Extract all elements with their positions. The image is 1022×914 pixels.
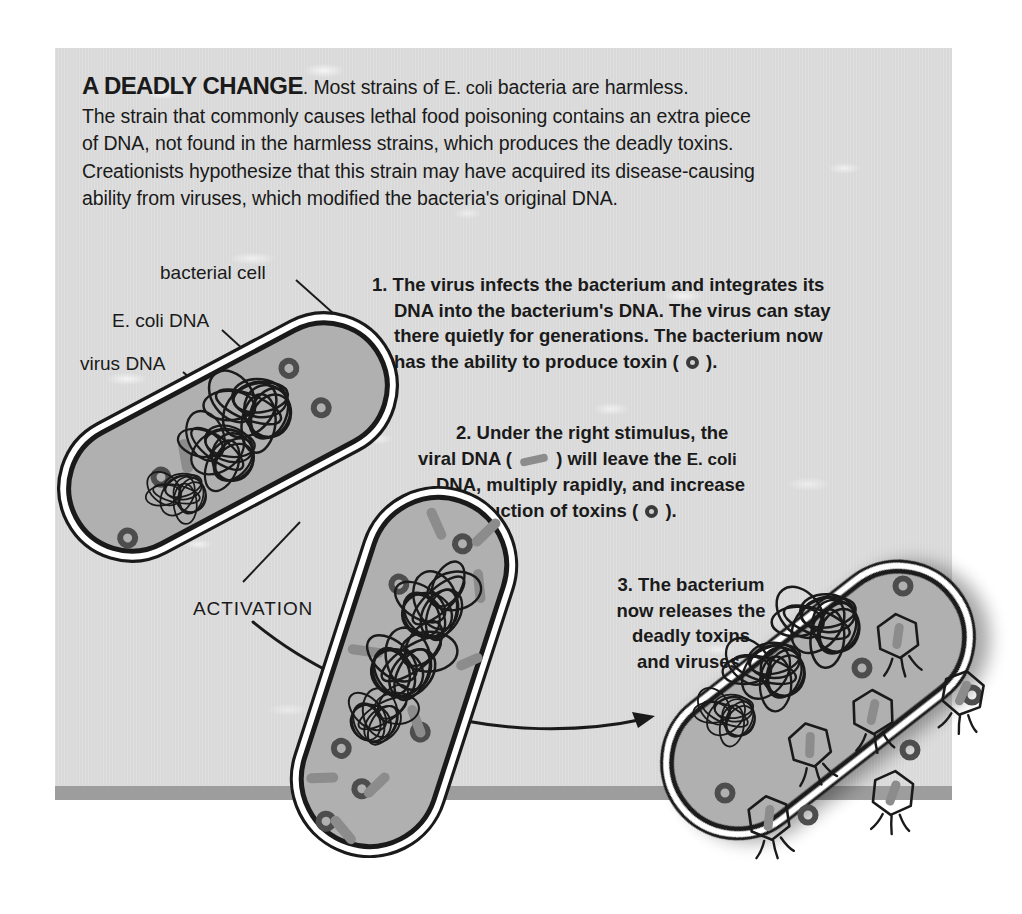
step-1-number: 1. <box>372 274 387 295</box>
step-1-line-3: there quietly for generations. The bacte… <box>372 323 831 349</box>
step-3-number: 3. <box>617 574 632 595</box>
viral-dna-rod-icon <box>520 453 549 467</box>
step-2-line-4-b: ). <box>660 500 676 521</box>
page-title: A DEADLY CHANGE <box>82 72 303 99</box>
headline-block: A DEADLY CHANGE. Most strains of E. coli… <box>82 72 882 213</box>
headline-line-5: ability from viruses, which modified the… <box>82 185 882 213</box>
step-3-line-3: deadly toxins <box>586 623 796 649</box>
bacteriophage-icon <box>747 793 794 861</box>
species-name-ecoli: E. coli <box>444 78 492 98</box>
label-ecoli-dna: E. coli DNA <box>112 310 209 332</box>
label-bacterial-cell: bacterial cell <box>160 262 266 284</box>
step-1-line-1-text: The virus infects the bacterium and inte… <box>393 274 825 295</box>
figure-canvas: A DEADLY CHANGE. Most strains of E. coli… <box>0 0 1022 914</box>
lead-text-b: bacteria are harmless. <box>492 76 688 98</box>
species-name-ecoli-step2: E. coli <box>687 450 737 469</box>
step-1-line-2: DNA into the bacterium's DNA. The virus … <box>372 298 831 324</box>
step-2-text: 2. Under the right stimulus, the viral D… <box>404 420 745 523</box>
step-1-line-4: has the ability to produce toxin ( ). <box>372 349 831 375</box>
step-2-line-2-a: viral DNA ( <box>418 448 517 469</box>
step-3-text: 3. The bacterium now releases the deadly… <box>586 572 796 674</box>
headline-line-3: of DNA, not found in the harmless strain… <box>82 130 882 158</box>
step-2-line-1-text: Under the right stimulus, the <box>477 422 729 443</box>
headline-line-4: Creationists hypothesize that this strai… <box>82 158 882 186</box>
step-2-line-1: 2. Under the right stimulus, the <box>404 420 745 446</box>
step-1-text: 1. The virus infects the bacterium and i… <box>372 272 831 374</box>
step-2-line-2: viral DNA ( ) will leave the E. coli <box>404 446 745 473</box>
step-2-line-2-b: ) will leave the <box>551 448 687 469</box>
lead-text-a: Most strains of <box>308 76 444 98</box>
step-3-line-1: 3. The bacterium <box>586 572 796 598</box>
headline-line-1: A DEADLY CHANGE. Most strains of E. coli… <box>82 72 882 103</box>
step-3-line-4: and viruses. <box>586 649 796 675</box>
step-2-line-4: production of toxins ( ). <box>404 498 745 524</box>
label-activation: ACTIVATION <box>193 598 313 620</box>
step-2-number: 2. <box>456 422 471 443</box>
panel-baseline-bar <box>55 786 952 800</box>
label-virus-dna: virus DNA <box>80 353 166 375</box>
toxin-ring-icon <box>686 356 699 369</box>
step-1-final-prefix: has the ability to produce toxin ( <box>394 351 684 372</box>
step-2-line-4-a: production of toxins ( <box>448 500 643 521</box>
step-3-line-2: now releases the <box>586 598 796 624</box>
step-2-line-3: DNA, multiply rapidly, and increase <box>404 472 745 498</box>
step-3-line-1-text: The bacterium <box>638 574 764 595</box>
headline-line-2: The strain that commonly causes lethal f… <box>82 103 882 131</box>
step-1-final-suffix: ). <box>701 351 717 372</box>
toxin-ring-icon-2 <box>645 505 658 518</box>
step-1-line-1: 1. The virus infects the bacterium and i… <box>372 272 831 298</box>
